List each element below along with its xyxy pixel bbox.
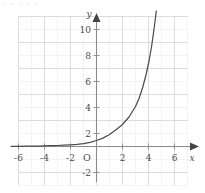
y-tick-label: 8 [85, 51, 91, 61]
origin-label: O [83, 152, 91, 163]
y-axis-label: y [85, 9, 92, 19]
x-tick-labels: -6 -4 -2 2 4 6 [14, 153, 178, 163]
y-tick-label: 10 [80, 25, 92, 35]
y-tick-label: 6 [85, 77, 91, 87]
x-tick-label: 6 [172, 153, 178, 163]
y-tick-label: 4 [85, 103, 91, 113]
y-axis-arrowhead [93, 13, 101, 22]
graph-figure: y = a b x [0, 0, 205, 193]
x-tick-label: 4 [146, 153, 152, 163]
x-tick-label: -6 [14, 153, 23, 163]
y-tick-label: -2 [82, 168, 91, 178]
x-tick-label: 2 [120, 153, 126, 163]
x-axis-label: x [189, 153, 194, 163]
y-tick-label: 2 [85, 129, 91, 139]
x-axis-arrowhead [190, 143, 199, 151]
exponential-graph-plot: -6 -4 -2 2 4 6 10 8 6 4 2 -2 O x y [0, 0, 205, 193]
x-tick-label: -2 [66, 153, 75, 163]
faint-header-text: y = a b x [3, 0, 113, 9]
x-tick-label: -4 [40, 153, 49, 163]
